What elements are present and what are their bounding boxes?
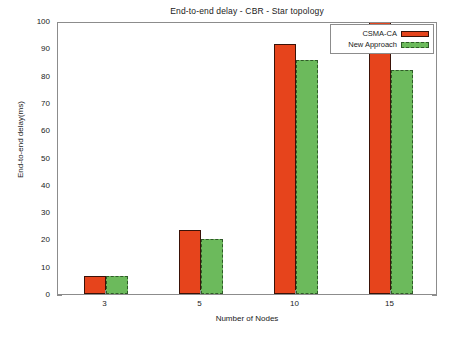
- bars-layer: [58, 23, 436, 294]
- x-axis-tick-label: 15: [360, 299, 420, 308]
- legend-label-csma-ca: CSMA-CA: [362, 29, 397, 38]
- chart-legend: CSMA-CA New Approach: [330, 24, 434, 54]
- legend-swatch-new-approach: [401, 42, 429, 48]
- y-axis-tick-mark-right: [432, 295, 437, 296]
- bar-csma-ca-10: [274, 44, 296, 294]
- x-axis-tick-mark: [390, 290, 391, 295]
- y-axis-tick-label: 10: [0, 263, 57, 273]
- bar-csma-ca-3: [84, 276, 106, 294]
- y-axis-tick-label: 60: [0, 126, 57, 136]
- x-axis-title: Number of Nodes: [57, 314, 437, 323]
- legend-item-new-approach: New Approach: [337, 39, 429, 50]
- y-axis-title: End-to-end delay(ms): [16, 60, 25, 220]
- legend-swatch-csma-ca: [401, 31, 429, 37]
- x-axis-tick-label: 5: [170, 299, 230, 308]
- chart-title: End-to-end delay - CBR - Star topology: [57, 6, 437, 16]
- y-axis-tick-label: 50: [0, 154, 57, 164]
- y-axis-tick-label: 30: [0, 208, 57, 218]
- y-axis-tick-label: 20: [0, 235, 57, 245]
- bar-csma-ca-15: [369, 23, 391, 294]
- y-axis-tick-label: 80: [0, 72, 57, 82]
- bar-csma-ca-5: [179, 230, 201, 294]
- x-axis-tick-mark: [295, 290, 296, 295]
- y-axis-tick-label: 90: [0, 44, 57, 54]
- x-axis-tick-label: 3: [75, 299, 135, 308]
- bar-new-approach-15: [391, 70, 413, 294]
- y-axis-tick-label: 70: [0, 99, 57, 109]
- bar-new-approach-3: [106, 276, 128, 294]
- x-axis-tick-mark: [105, 290, 106, 295]
- x-axis-tick-mark: [200, 290, 201, 295]
- bar-new-approach-10: [296, 60, 318, 294]
- bar-new-approach-5: [201, 239, 223, 294]
- y-axis-tick-label: 40: [0, 181, 57, 191]
- y-axis-tick-label: 0: [0, 290, 57, 300]
- plot-area: CSMA-CA New Approach: [57, 22, 437, 295]
- legend-item-csma-ca: CSMA-CA: [337, 28, 429, 39]
- legend-label-new-approach: New Approach: [348, 40, 397, 49]
- y-axis-tick-label: 100: [0, 17, 57, 27]
- y-axis-tick-mark: [57, 295, 62, 296]
- chart-container: End-to-end delay - CBR - Star topology E…: [0, 0, 457, 340]
- x-axis-tick-label: 10: [265, 299, 325, 308]
